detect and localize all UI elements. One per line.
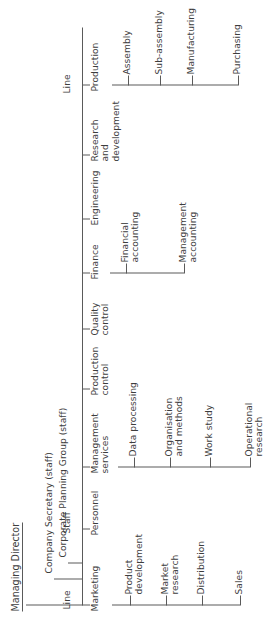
finance-child-tick-0: [126, 263, 127, 273]
management-services-sub-spine: [118, 466, 250, 467]
management-services-child-tick-3: [250, 457, 251, 467]
dept-tick-finance: [82, 272, 90, 273]
production-sub-spine: [112, 84, 238, 85]
marketing-child-label-3: Sales: [234, 520, 244, 594]
group-label-line-left: Line: [62, 590, 72, 609]
dept-tick-marketing: [82, 604, 90, 605]
dept-label-research-and-development: Research and development: [90, 105, 121, 161]
management-services-child-tick-1: [170, 457, 171, 467]
staff-label-company-secretary: Company Secretary (staff): [44, 452, 54, 573]
management-services-child-label-0: Data processing: [128, 378, 138, 456]
dept-tick-research-and-development: [82, 154, 90, 155]
marketing-child-label-2: Distribution: [196, 520, 206, 594]
production-child-tick-0: [128, 75, 129, 85]
production-child-label-3: Purchasing: [232, 4, 242, 74]
marketing-child-tick-0: [130, 595, 131, 605]
finance-child-label-0: Financial accounting: [120, 192, 141, 262]
dept-label-marketing: Marketing: [90, 541, 100, 611]
dept-tick-personnel: [82, 528, 90, 529]
dept-label-quality-control: Quality control: [90, 279, 111, 335]
management-services-child-label-3: Operational research: [244, 386, 265, 456]
marketing-child-label-1: Market research: [160, 520, 181, 594]
root-stem: [26, 604, 82, 605]
dept-label-production-control: Production control: [90, 335, 111, 395]
production-child-label-0: Assembly: [122, 10, 132, 74]
production-child-tick-3: [238, 75, 239, 85]
marketing-child-tick-2: [202, 595, 203, 605]
dept-label-personnel: Personnel: [90, 465, 100, 535]
staff-connector-company-secretary: [54, 578, 82, 579]
root-title: Managing Director: [10, 522, 23, 611]
marketing-child-label-0: Product development: [124, 520, 145, 594]
management-services-child-label-1: Organisation and methods: [164, 382, 185, 456]
dept-label-production: Production: [90, 25, 100, 91]
staff-connector-corporate-planning: [68, 562, 82, 563]
dept-tick-management-services: [82, 466, 90, 467]
production-child-tick-2: [192, 75, 193, 85]
main-spine: [82, 27, 83, 605]
dept-tick-engineering: [82, 218, 90, 219]
dept-label-finance: Finance: [90, 219, 100, 279]
group-label-line-right: Line: [62, 74, 72, 93]
organization-chart: Managing Director Company Secretary (sta…: [0, 0, 278, 633]
finance-child-label-1: Management accounting: [178, 188, 199, 262]
management-services-child-tick-0: [134, 457, 135, 467]
production-child-label-1: Sub-assembly: [154, 4, 164, 74]
finance-child-tick-1: [184, 263, 185, 273]
production-child-tick-1: [160, 75, 161, 85]
dept-tick-production: [82, 84, 90, 85]
finance-sub-spine: [110, 272, 184, 273]
chart-canvas: Managing Director Company Secretary (sta…: [0, 0, 278, 633]
management-services-child-tick-2: [210, 457, 211, 467]
production-child-label-2: Manufacturing: [186, 4, 196, 74]
management-services-child-label-2: Work study: [204, 382, 214, 456]
marketing-child-tick-1: [166, 595, 167, 605]
staff-label-corporate-planning: Corporate Planning Group (staff): [58, 407, 68, 557]
marketing-child-tick-3: [240, 595, 241, 605]
dept-tick-quality-control: [82, 328, 90, 329]
dept-label-management-services: Management services: [90, 409, 111, 473]
dept-tick-production-control: [82, 388, 90, 389]
marketing-sub-spine: [112, 604, 240, 605]
group-label-staff: Staff: [62, 511, 72, 533]
dept-label-engineering: Engineering: [90, 159, 100, 225]
